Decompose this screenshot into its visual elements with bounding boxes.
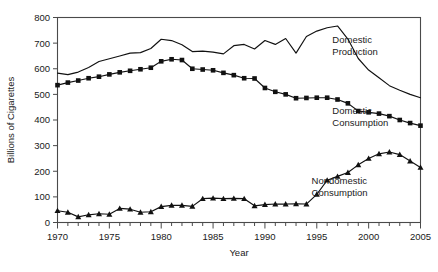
x-tick-label: 2000 [358, 231, 379, 242]
y-axis-title: Billions of Cigarettes [5, 76, 16, 163]
y-tick-label: 200 [34, 166, 50, 177]
series-marker-1 [314, 95, 319, 100]
annotation-label-1: Domestic [332, 105, 372, 116]
x-tick-label: 1990 [254, 231, 275, 242]
y-tick-label: 600 [34, 63, 50, 74]
series-marker-1 [397, 118, 402, 123]
y-tick-label: 700 [34, 38, 50, 49]
y-tick-label: 300 [34, 140, 50, 151]
series-marker-1 [117, 70, 122, 75]
series-marker-1 [325, 95, 330, 100]
x-tick-label: 1970 [47, 231, 68, 242]
series-marker-1 [97, 74, 102, 79]
series-marker-1 [66, 80, 71, 85]
series-marker-1 [211, 68, 216, 73]
series-marker-1 [138, 67, 143, 72]
cigarette-trends-chart: 0100200300400500600700800197019751980198… [0, 0, 438, 272]
series-marker-1 [283, 92, 288, 97]
x-tick-label: 2005 [410, 231, 431, 242]
annotation-label-1-line2: Consumption [332, 117, 388, 128]
series-marker-2 [418, 164, 424, 169]
x-tick-label: 1995 [306, 231, 327, 242]
series-marker-1 [86, 76, 91, 81]
chart-container: 0100200300400500600700800197019751980198… [0, 0, 438, 272]
series-marker-1 [232, 73, 237, 78]
series-marker-1 [252, 76, 257, 81]
series-marker-1 [159, 59, 164, 64]
series-marker-1 [221, 71, 226, 76]
annotation-label-2: Nondomestic [312, 175, 368, 186]
x-tick-label: 1985 [203, 231, 224, 242]
x-tick-label: 1980 [151, 231, 172, 242]
series-marker-1 [273, 90, 278, 95]
annotation-label-2-line2: Consumption [312, 187, 368, 198]
series-marker-1 [200, 67, 205, 72]
y-tick-label: 800 [34, 12, 50, 23]
series-marker-1 [263, 86, 268, 91]
series-marker-1 [242, 76, 247, 81]
series-marker-1 [107, 72, 112, 77]
x-axis-title: Year [229, 247, 248, 258]
y-tick-label: 500 [34, 89, 50, 100]
series-marker-1 [149, 65, 154, 70]
series-marker-1 [169, 57, 174, 62]
series-marker-1 [294, 96, 299, 101]
series-marker-1 [180, 58, 185, 63]
series-marker-1 [418, 123, 423, 128]
y-tick-label: 100 [34, 191, 50, 202]
series-marker-1 [335, 97, 340, 102]
series-marker-1 [76, 78, 81, 83]
annotation-label-0: Domestic [332, 34, 372, 45]
series-marker-2 [55, 208, 61, 213]
series-marker-1 [377, 111, 382, 116]
series-marker-1 [190, 66, 195, 71]
annotation-label-0-line2: Production [332, 46, 377, 57]
x-tick-label: 1975 [99, 231, 120, 242]
series-marker-1 [128, 69, 133, 74]
series-marker-2 [366, 155, 372, 160]
series-marker-1 [55, 83, 60, 88]
y-tick-label: 400 [34, 114, 50, 125]
series-marker-2 [355, 162, 361, 167]
y-tick-label: 0 [45, 217, 50, 228]
series-marker-1 [304, 96, 309, 101]
series-marker-2 [407, 158, 413, 163]
series-marker-1 [408, 121, 413, 126]
series-marker-2 [386, 149, 392, 154]
